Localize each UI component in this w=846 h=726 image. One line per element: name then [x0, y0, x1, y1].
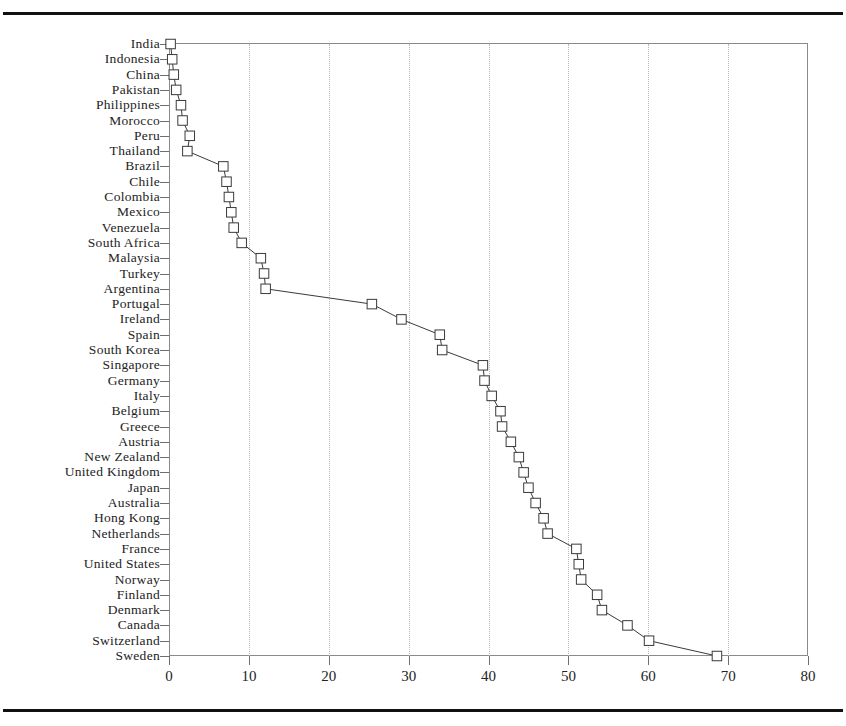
- y-axis-label-row: Greece: [0, 420, 172, 434]
- category-label-australia: Australia: [12, 496, 172, 510]
- category-label-austria: Austria: [12, 435, 172, 449]
- y-axis-label-row: Denmark: [0, 603, 172, 617]
- category-label-brazil: Brazil: [12, 159, 172, 173]
- y-axis-label-row: Australia: [0, 496, 172, 510]
- y-axis-label-row: Portugal: [0, 297, 172, 311]
- y-axis-label-row: South Africa: [0, 236, 172, 250]
- y-axis-label-row: Hong Kong: [0, 511, 172, 525]
- y-axis-label-row: Sweden: [0, 649, 172, 663]
- gridline-10: [249, 44, 250, 656]
- x-axis-label-20: 20: [299, 668, 359, 685]
- x-tick-30: [409, 656, 410, 665]
- x-tick-50: [568, 656, 569, 665]
- category-label-pakistan: Pakistan: [12, 83, 172, 97]
- category-label-spain: Spain: [12, 328, 172, 342]
- gridline-50: [568, 44, 569, 656]
- category-label-morocco: Morocco: [12, 114, 172, 128]
- category-label-india: India: [12, 37, 172, 51]
- category-label-portugal: Portugal: [12, 297, 172, 311]
- y-axis-label-row: France: [0, 542, 172, 556]
- y-axis-label-row: Indonesia: [0, 52, 172, 66]
- category-label-italy: Italy: [12, 389, 172, 403]
- y-axis-label-row: Mexico: [0, 205, 172, 219]
- x-tick-80: [808, 656, 809, 665]
- category-label-new-zealand: New Zealand: [12, 450, 172, 464]
- y-axis-label-row: Argentina: [0, 282, 172, 296]
- y-axis-label-row: Ireland: [0, 312, 172, 326]
- y-axis-label-row: Switzerland: [0, 634, 172, 648]
- gridline-60: [648, 44, 649, 656]
- category-label-singapore: Singapore: [12, 358, 172, 372]
- category-label-united-kingdom: United Kingdom: [12, 465, 172, 479]
- category-label-netherlands: Netherlands: [12, 527, 172, 541]
- category-label-norway: Norway: [12, 573, 172, 587]
- x-tick-40: [489, 656, 490, 665]
- y-axis-label-row: United Kingdom: [0, 465, 172, 479]
- x-axis-label-30: 30: [379, 668, 439, 685]
- x-axis-label-60: 60: [618, 668, 678, 685]
- category-label-finland: Finland: [12, 588, 172, 602]
- category-label-south-korea: South Korea: [12, 343, 172, 357]
- y-axis-label-row: Morocco: [0, 114, 172, 128]
- y-axis-label-row: Canada: [0, 618, 172, 632]
- x-axis-label-10: 10: [219, 668, 279, 685]
- category-label-greece: Greece: [12, 420, 172, 434]
- y-axis-label-row: China: [0, 68, 172, 82]
- y-axis-label-row: Netherlands: [0, 527, 172, 541]
- gridline-20: [329, 44, 330, 656]
- y-axis-label-row: United States: [0, 557, 172, 571]
- category-label-belgium: Belgium: [12, 404, 172, 418]
- y-axis-label-row: Venezuela: [0, 221, 172, 235]
- x-tick-70: [728, 656, 729, 665]
- y-axis-label-row: Malaysia: [0, 251, 172, 265]
- category-label-mexico: Mexico: [12, 205, 172, 219]
- category-label-malaysia: Malaysia: [12, 251, 172, 265]
- y-axis-label-row: New Zealand: [0, 450, 172, 464]
- category-label-ireland: Ireland: [12, 312, 172, 326]
- category-label-chile: Chile: [12, 175, 172, 189]
- category-label-colombia: Colombia: [12, 190, 172, 204]
- y-axis-label-row: Brazil: [0, 159, 172, 173]
- category-label-turkey: Turkey: [12, 267, 172, 281]
- gridline-30: [409, 44, 410, 656]
- category-label-germany: Germany: [12, 374, 172, 388]
- y-axis-label-row: Colombia: [0, 190, 172, 204]
- category-label-peru: Peru: [12, 129, 172, 143]
- x-axis-label-70: 70: [698, 668, 758, 685]
- y-axis-label-row: Italy: [0, 389, 172, 403]
- y-axis-label-row: India: [0, 37, 172, 51]
- category-label-united-states: United States: [12, 557, 172, 571]
- category-label-venezuela: Venezuela: [12, 221, 172, 235]
- category-label-hong-kong: Hong Kong: [12, 511, 172, 525]
- y-axis-label-row: Belgium: [0, 404, 172, 418]
- category-label-thailand: Thailand: [12, 144, 172, 158]
- x-axis-label-40: 40: [459, 668, 519, 685]
- x-tick-60: [648, 656, 649, 665]
- category-label-japan: Japan: [12, 481, 172, 495]
- y-axis-label-row: Philippines: [0, 98, 172, 112]
- y-axis-label-row: Pakistan: [0, 83, 172, 97]
- category-label-canada: Canada: [12, 618, 172, 632]
- y-axis-label-row: South Korea: [0, 343, 172, 357]
- category-label-switzerland: Switzerland: [12, 634, 172, 648]
- y-axis-label-row: Finland: [0, 588, 172, 602]
- category-label-south-africa: South Africa: [12, 236, 172, 250]
- category-label-denmark: Denmark: [12, 603, 172, 617]
- category-label-sweden: Sweden: [12, 649, 172, 663]
- y-axis-label-row: Austria: [0, 435, 172, 449]
- y-axis-label-row: Thailand: [0, 144, 172, 158]
- category-label-france: France: [12, 542, 172, 556]
- x-tick-0: [169, 656, 170, 665]
- gridline-40: [489, 44, 490, 656]
- y-axis-label-row: Spain: [0, 328, 172, 342]
- gridline-70: [728, 44, 729, 656]
- figure-page: IndiaIndonesiaChinaPakistanPhilippinesMo…: [0, 0, 846, 726]
- x-axis-label-0: 0: [139, 668, 199, 685]
- y-axis-label-row: Turkey: [0, 267, 172, 281]
- x-tick-20: [329, 656, 330, 665]
- x-axis-label-80: 80: [778, 668, 838, 685]
- line-chart: IndiaIndonesiaChinaPakistanPhilippinesMo…: [0, 0, 846, 726]
- y-axis-label-row: Singapore: [0, 358, 172, 372]
- category-label-philippines: Philippines: [12, 98, 172, 112]
- y-axis-label-row: Japan: [0, 481, 172, 495]
